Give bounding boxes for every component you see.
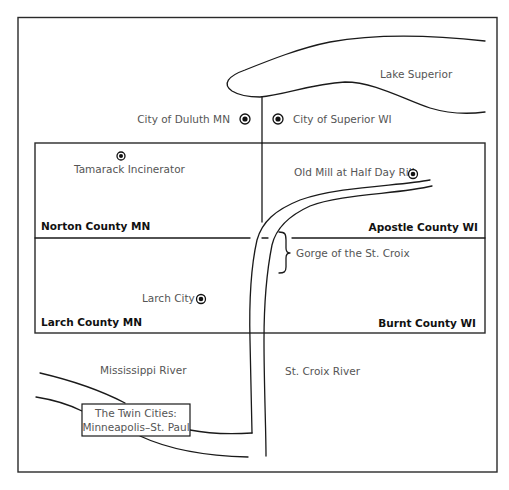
mississippi-river-north-bank-east (190, 430, 252, 434)
mississippi-river-label: Mississippi River (100, 364, 187, 376)
tamarack-marker-icon (117, 152, 125, 160)
norton-county-label: Norton County MN (41, 220, 150, 232)
mississippi-river-south-bank (36, 397, 82, 411)
burnt-county-label: Burnt County WI (378, 317, 476, 329)
twin-cities-label-line1: The Twin Cities: (94, 407, 177, 419)
old-mill-label: Old Mill at Half Day Rill (294, 166, 415, 178)
twin-cities-label-line2: Minneapolis–St. Paul (82, 421, 189, 433)
duluth-marker-icon (240, 114, 250, 124)
larch-county-label: Larch County MN (41, 316, 142, 328)
apostle-county-label: Apostle County WI (369, 221, 478, 233)
superior-label: City of Superior WI (293, 113, 392, 125)
superior-marker-icon (273, 114, 283, 124)
tamarack-label: Tamarack Incinerator (73, 163, 186, 175)
duluth-label: City of Duluth MN (137, 113, 230, 125)
st-croix-river-west-bank (250, 180, 430, 433)
larch-city-marker-icon (197, 295, 206, 304)
old-mill-marker-icon (409, 170, 418, 179)
larch-city-label: Larch City (142, 292, 195, 304)
st-croix-river-label: St. Croix River (285, 365, 361, 377)
lake-superior-label: Lake Superior (380, 68, 453, 80)
gorge-label: Gorge of the St. Croix (296, 247, 410, 259)
mississippi-river-south-bank-east (140, 436, 248, 457)
gorge-brace (279, 232, 290, 273)
region-map: The Twin Cities: Minneapolis–St. Paul La… (0, 0, 509, 490)
mississippi-river-north-bank (40, 373, 125, 403)
